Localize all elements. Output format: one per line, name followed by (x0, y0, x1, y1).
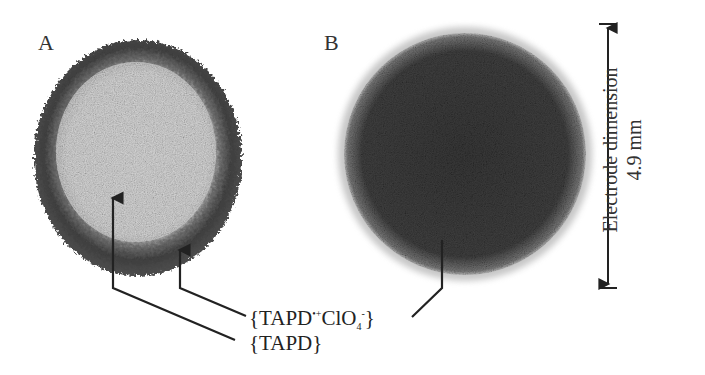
label-text: } (365, 306, 375, 330)
label-text: {TAPD (249, 306, 312, 330)
label-subscript: 4 (356, 321, 361, 332)
scale-bar-label: Electrode dimension 4.9 mm (598, 20, 646, 280)
label-tapd-radical-perchlorate: {TAPD•+ClO4-} (249, 306, 375, 332)
scale-bar-title: Electrode dimension (598, 20, 622, 280)
electrode-b (338, 27, 592, 281)
panel-label-a: A (38, 30, 54, 56)
label-text: ClO (321, 306, 356, 330)
scale-bar-value: 4.9 mm (622, 20, 646, 280)
electrode-a (34, 40, 242, 276)
panel-label-b: B (324, 30, 339, 56)
electrode-b-disc (344, 33, 586, 275)
electrode-a-center (56, 62, 216, 242)
label-tapd-neutral: {TAPD} (249, 331, 322, 356)
